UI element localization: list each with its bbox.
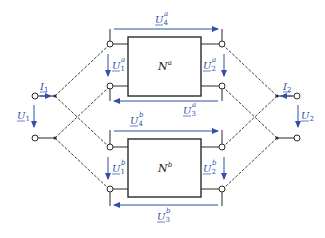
label-u1b: U1b <box>112 159 126 176</box>
label-u4b: U4b <box>130 111 144 128</box>
block-na: Na <box>128 37 201 96</box>
block-nb-label: Nb <box>157 161 173 175</box>
label-u1a: U1a <box>112 56 125 73</box>
voltage-current-arrows <box>34 29 298 205</box>
block-na-label: Na <box>157 59 172 73</box>
two-port-circuit-diagram: Na Nb <box>0 0 325 238</box>
label-u2a: U2a <box>203 56 216 73</box>
labels: I1 U1 I2 U2 U4a U3a U4b U3b U1a U2a U1b … <box>17 10 314 224</box>
label-u4a: U4a <box>155 10 168 27</box>
label-u2b: U2b <box>203 159 217 176</box>
label-u3a: U3a <box>183 101 196 118</box>
block-nb: Nb <box>128 139 201 197</box>
label-u3b: U3b <box>157 207 171 224</box>
